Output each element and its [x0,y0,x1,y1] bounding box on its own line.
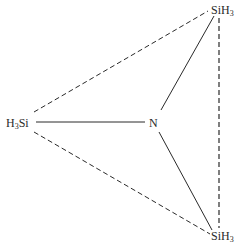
atom-label-si-left: H3Si [6,117,29,131]
solid-bond-n-top [161,16,214,110]
diagram-canvas [0,0,240,248]
atom-label-n: N [149,117,158,129]
element: SiH [211,229,230,243]
atom-label-si-top: SiH3 [211,4,234,18]
dashed-bond-left-top [34,11,208,112]
dashed-bond-left-bottom [34,132,210,234]
element: Si [19,116,29,130]
atom-label-si-bottom: SiH3 [211,230,234,244]
solid-bond-n-bottom [159,132,212,230]
element: SiH [211,3,230,17]
trisilylamine-diagram: SiH3 H3Si N SiH3 [0,0,240,248]
element: N [149,116,158,130]
prefix-h: H [6,116,15,130]
subscript: 3 [230,9,234,18]
subscript: 3 [230,235,234,244]
